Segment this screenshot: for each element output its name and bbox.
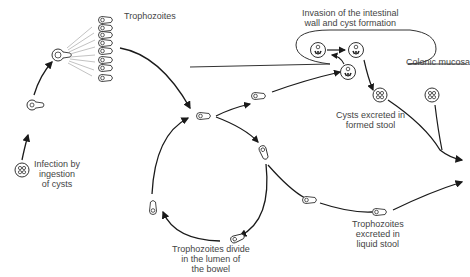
loop-trophozoite-bottom (230, 232, 246, 243)
label-trophozoites: Trophozoites (124, 11, 176, 21)
label-infection: Infection byingestionof cysts (34, 159, 80, 189)
label-troph-divide: Trophozoites dividein the lumen ofthe bo… (172, 244, 250, 274)
division-loop-left (152, 118, 188, 194)
invading-trophozoite (252, 93, 266, 100)
lumen-trophozoite (197, 113, 211, 120)
arrow-liquid-out (393, 182, 462, 210)
label-invasion: Invasion of the intestinalwall and cyst … (302, 8, 399, 28)
division-loop (240, 164, 267, 236)
arrow-to-wall (216, 104, 250, 116)
metacyst (52, 49, 72, 61)
arrow-invade (272, 72, 340, 92)
release-lines (67, 27, 95, 76)
wall-cell-3 (341, 65, 356, 80)
division-loop-bottom (163, 212, 220, 241)
wall-cell-2 (349, 43, 364, 58)
arrow-excystation (34, 62, 52, 95)
arrow-formed-stool (388, 100, 462, 160)
label-cysts-excreted: Cysts excreted informed stool (336, 110, 405, 130)
ingested-cyst (15, 163, 29, 177)
excysting-form (27, 100, 44, 110)
dividing-trophozoite (258, 145, 269, 161)
liquid-trophozoite-1 (303, 197, 317, 204)
label-colonic-mucosa: Colonic mucosa (406, 57, 470, 67)
trophozoite-group (99, 17, 113, 82)
arrow-to-lumen (120, 48, 190, 108)
wall-cell-1 (311, 43, 326, 58)
excreted-cyst-1 (373, 88, 387, 102)
label-troph-excreted: Trophozoitesexcreted inliquid stool (352, 219, 404, 249)
excreted-cyst-2 (425, 88, 439, 102)
arrow-ingestion (22, 135, 28, 160)
arrow-liquid-path (268, 165, 305, 198)
liquid-trophozoite-2 (373, 209, 387, 216)
arrow-down-loop (216, 117, 258, 142)
loop-trophozoite-left (150, 201, 157, 215)
